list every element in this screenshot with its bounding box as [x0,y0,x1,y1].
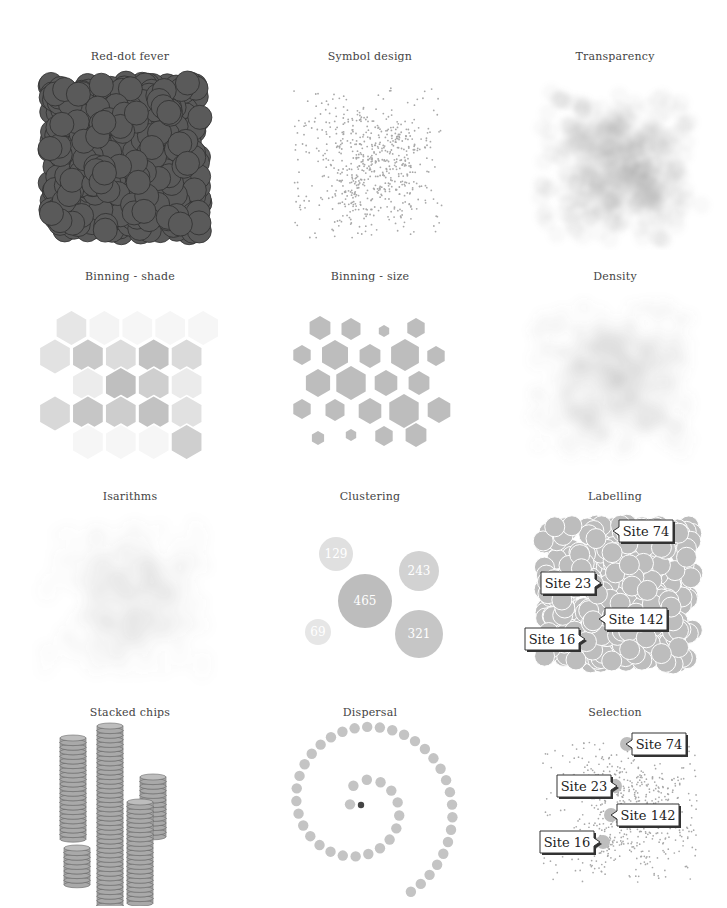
data-dot [623,787,625,789]
data-dot [634,794,636,796]
data-dot [399,168,401,170]
data-dot [596,805,598,807]
data-dot [367,197,369,199]
data-dot [332,98,334,100]
data-dot [601,850,603,852]
data-dot [351,176,353,178]
data-dot [611,826,613,828]
data-dot [691,817,693,819]
data-dot [352,129,354,131]
density-blob [678,447,688,457]
data-dot [635,875,637,877]
density-blob [645,346,655,356]
data-dot [628,875,630,877]
data-dot [410,205,412,207]
data-dot [409,171,411,173]
density-blob [671,381,681,391]
data-dot [342,168,344,170]
data-dot [381,186,383,188]
data-dot [394,133,396,135]
density-blob [170,606,180,616]
data-dot [336,179,338,181]
data-dot [438,131,440,133]
density-blob [646,357,656,367]
density-blob [667,305,677,315]
data-dot [420,138,422,140]
site-label: Site 23 [541,572,603,596]
data-dot [314,232,316,234]
density-blob [156,523,166,533]
data-dot [350,223,352,225]
data-dot [424,199,426,201]
data-dot [402,202,404,204]
data-dot [309,237,311,239]
density-blob [590,402,600,412]
hex-bin [322,340,348,370]
data-dot [375,160,377,162]
data-dot [431,88,433,90]
data-dot [296,224,298,226]
data-dot [421,185,423,187]
dispersed-dot [375,843,385,853]
site-label: Site 23 [557,775,619,799]
data-dot [366,126,368,128]
data-dot [569,761,571,763]
data-dot [550,792,552,794]
data-dot [603,851,605,853]
data-dot [400,159,402,161]
data-dot [365,192,367,194]
data-dot [607,853,609,855]
panel-selection: Selection Site 74Site 23Site 142Site 16 [515,706,715,906]
data-dot [322,159,324,161]
data-dot [547,753,549,755]
data-dot [424,90,426,92]
data-dot [371,160,373,162]
data-dot [380,207,382,209]
data-dot [400,131,402,133]
data-dot [334,221,336,223]
density-blob [586,440,596,450]
data-dot [595,756,597,758]
density-blob [135,623,145,633]
density-blob [621,426,631,436]
data-dot [416,150,418,152]
panel-labelling: Labelling Site 74Site 23Site 142Site 16 [515,490,715,690]
hex-bin [122,310,153,346]
density-blob [658,415,668,425]
data-dot [371,158,373,160]
data-dot [89,73,113,97]
density-blob [177,538,187,548]
data-dot [661,799,663,801]
data-dot [408,182,410,184]
data-dot [621,771,623,773]
data-dot [604,800,606,802]
data-dot [412,171,414,173]
data-dot [680,778,682,780]
data-dot [359,112,361,114]
data-dot [339,202,341,204]
data-dot [305,196,307,198]
data-dot [395,141,397,143]
data-dot [586,529,606,549]
panel-dispersal: Dispersal [270,706,470,906]
data-dot [297,159,299,161]
data-dot [385,160,387,162]
site-label: Site 16 [525,628,587,652]
data-dot [92,110,116,134]
data-dot [651,644,671,664]
data-dot [653,88,671,106]
cluster-count: 465 [354,594,377,608]
density-blob [663,346,673,356]
data-dot [391,144,393,146]
data-dot [329,113,331,115]
data-dot [343,113,345,115]
data-dot [323,175,325,177]
data-dot [352,150,354,152]
density-blob [627,392,637,402]
data-dot [352,131,354,133]
data-dot [429,131,431,133]
data-dot [393,159,395,161]
data-dot [400,124,402,126]
data-dot [619,832,621,834]
site-label: Site 142 [611,804,681,828]
